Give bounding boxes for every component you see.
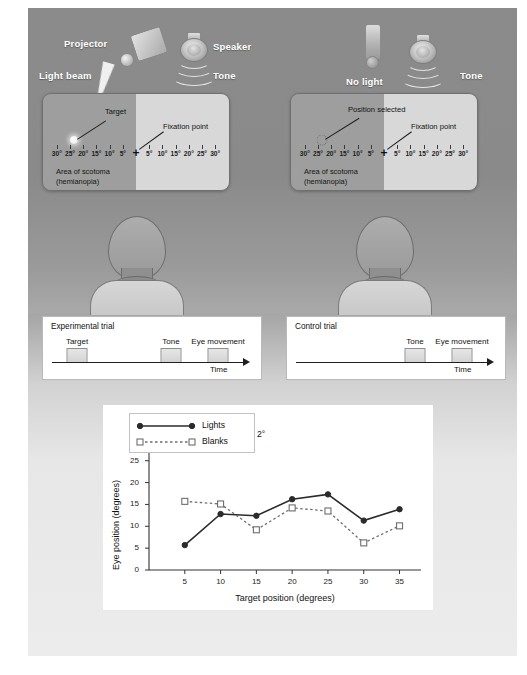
apparatus-scene: Projector Light beam Speaker Tone No lig… (28, 8, 517, 313)
visual-field-display-control: Position selected + Fixation point 30°25… (290, 93, 478, 191)
degree-label: 25° (197, 150, 207, 157)
projector-icon (129, 26, 168, 63)
legend-label-lights: Lights (202, 420, 225, 430)
x-tick-label: 20 (288, 577, 297, 586)
event-block-target (67, 348, 88, 363)
data-point-blanks-25 (325, 508, 331, 514)
degree-label: 30° (300, 150, 310, 157)
degree-scale-control: 30°25°20°15°10°5°5°10°15°20°25°30° (291, 150, 477, 166)
y-tick-label: 25 (130, 456, 139, 465)
event-label-tone: Tone (406, 337, 423, 346)
y-tick-label: 20 (130, 478, 139, 487)
event-label-eye-movement: Eye movement (435, 337, 488, 346)
eye-position-chart: 051015202530355101520253035Eye position … (103, 405, 433, 610)
degree-tick (358, 145, 359, 149)
degree-label: 20° (432, 150, 442, 157)
x-tick-label: 5 (183, 577, 187, 586)
degree-label: 20° (326, 150, 336, 157)
degree-tick (215, 145, 216, 149)
degree-label: 25° (313, 150, 323, 157)
fixation-point-label: Fixation point (411, 122, 456, 131)
tone-label-left: Tone (213, 70, 236, 81)
control-trial-title: Control trial (295, 322, 337, 331)
fixation-point-label: Fixation point (163, 122, 208, 131)
x-axis-title: Target position (degrees) (235, 593, 335, 603)
no-light-label: No light (346, 76, 383, 87)
x-tick-label: 15 (252, 577, 261, 586)
degree-label: 15° (171, 150, 181, 157)
degree-tick (463, 145, 464, 149)
degree-tick (371, 145, 372, 149)
degree-label: 30° (458, 150, 468, 157)
event-label-tone: Tone (162, 337, 179, 346)
degree-label: 10° (157, 150, 167, 157)
scotoma-note: Area of scotoma (hemianopia) (304, 167, 358, 187)
projector-label: Projector (64, 38, 108, 49)
scotoma-note: Area of scotoma (hemianopia) (56, 167, 110, 187)
degree-label: 10° (353, 150, 363, 157)
degree-tick (123, 145, 124, 149)
legend-marker-blanks (189, 439, 195, 445)
degree-label: 25° (65, 150, 75, 157)
time-axis (296, 362, 488, 363)
degree-label: 5° (394, 150, 400, 157)
event-block-eye-movement (452, 348, 473, 363)
degree-tick (331, 145, 332, 149)
legend-marker-lights (137, 423, 142, 428)
degree-label: 25° (445, 150, 455, 157)
degree-label: 10° (405, 150, 415, 157)
target-label: Target (105, 107, 126, 116)
figure-root: Projector Light beam Speaker Tone No lig… (0, 0, 527, 675)
event-block-tone (405, 348, 426, 363)
degree-tick (162, 145, 163, 149)
degree-label: 20° (184, 150, 194, 157)
data-point-blanks-5 (182, 498, 188, 504)
degree-tick (450, 145, 451, 149)
projector-off-icon (365, 24, 381, 60)
speaker-label: Speaker (213, 41, 251, 52)
degree-tick (96, 145, 97, 149)
degree-label: 15° (419, 150, 429, 157)
degree-tick (305, 145, 306, 149)
degree-tick (424, 145, 425, 149)
experimental-trial-panel: Experimental trial Target Tone Eye movem… (42, 316, 262, 380)
degree-tick (149, 145, 150, 149)
data-point-blanks-15 (253, 527, 259, 533)
legend-label-blanks: Blanks (202, 436, 228, 446)
x-tick-label: 25 (323, 577, 332, 586)
visual-field-display-experimental: Target + Fixation point 30°25°20°15°10°5… (42, 93, 230, 191)
degree-tick (344, 145, 345, 149)
time-axis-arrow-icon (243, 358, 250, 366)
position-selected-marker (317, 135, 328, 146)
degree-label: 10° (105, 150, 115, 157)
degree-label: 30° (210, 150, 220, 157)
sound-wave-icon (172, 67, 216, 86)
degree-tick (318, 145, 319, 149)
data-point-blanks-35 (397, 523, 403, 529)
event-label-target: Target (66, 337, 88, 346)
data-point-blanks-20 (289, 505, 295, 511)
data-point-lights-5 (182, 542, 187, 547)
y-tick-label: 5 (135, 543, 139, 552)
degree-scale-experimental: 30°25°20°15°10°5°5°10°15°20°25°30° (43, 150, 229, 166)
y-tick-label: 10 (130, 521, 139, 530)
degree-label: 5° (368, 150, 374, 157)
event-block-tone (161, 348, 182, 363)
tone-label-right: Tone (460, 70, 483, 81)
degree-tick (57, 145, 58, 149)
data-point-lights-15 (254, 513, 259, 518)
degree-tick (70, 145, 71, 149)
data-point-lights-10 (218, 511, 223, 516)
degree-tick (110, 145, 111, 149)
time-axis (52, 362, 244, 363)
chart-legend: LightsBlanks (129, 413, 255, 453)
x-tick-label: 30 (359, 577, 368, 586)
legend-marker-blanks (137, 439, 143, 445)
degree-label: 5° (146, 150, 152, 157)
degree-tick (397, 145, 398, 149)
y-axis-title: Eye position (degrees) (111, 480, 121, 570)
sound-wave-icon (401, 69, 445, 88)
degree-label: 20° (78, 150, 88, 157)
time-axis-label: Time (210, 365, 227, 374)
data-point-blanks-30 (361, 540, 367, 546)
